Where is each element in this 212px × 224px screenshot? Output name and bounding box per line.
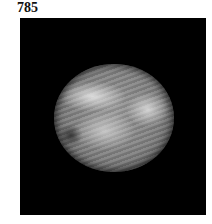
figure-image-frame [20, 18, 206, 215]
figure-label: 785 [17, 0, 38, 16]
circular-field-of-view-image [54, 64, 174, 172]
